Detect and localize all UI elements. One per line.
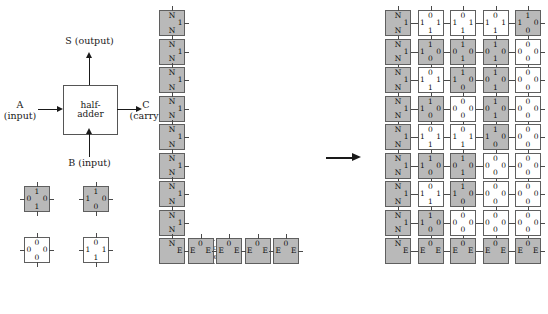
tile-edge-right: 0 bbox=[534, 105, 539, 113]
result-tile-r4-c1: NN1 bbox=[385, 96, 411, 122]
tile-edge-right: 0 bbox=[534, 76, 539, 84]
bond-h-r8-c2 bbox=[444, 223, 451, 224]
tile-edge-right: 1 bbox=[436, 19, 441, 27]
tile-stub-right bbox=[540, 23, 545, 24]
tile-edge-right: 0 bbox=[436, 48, 441, 56]
tile-edge-bottom: 0 bbox=[461, 198, 466, 206]
tile-stub-right bbox=[184, 194, 189, 195]
tile-edge-right: 0 bbox=[501, 76, 506, 84]
tile-stub-top bbox=[398, 6, 399, 11]
result-tile-r2-c4: 1100 bbox=[483, 39, 509, 65]
tile-edge-right: E bbox=[291, 247, 296, 255]
bond-v-r3-c2 bbox=[431, 93, 432, 96]
bond-v-r1-c3 bbox=[463, 36, 464, 39]
tile-stub-right bbox=[184, 137, 189, 138]
tile-edge-top: 0 bbox=[428, 183, 433, 191]
result-tile-r5-c3: 0111 bbox=[450, 124, 476, 150]
seed-column-tile-7: NN1 bbox=[159, 181, 185, 207]
result-tile-r4-c2: 1010 bbox=[418, 96, 444, 122]
tile-edge-bottom: N bbox=[395, 55, 402, 63]
tile-edge-left: 1 bbox=[86, 246, 91, 254]
tile-edge-bottom: N bbox=[395, 169, 402, 177]
tile-edge-left: 1 bbox=[453, 190, 458, 198]
tile-edge-top: 0 bbox=[526, 98, 531, 106]
tile-edge-right: 0 bbox=[501, 190, 506, 198]
tile-edge-top: 1 bbox=[35, 188, 40, 196]
result-tile-r1-c2: 0111 bbox=[418, 10, 444, 36]
tile-stub-top bbox=[201, 234, 202, 239]
output-arrow-head bbox=[86, 52, 92, 58]
tile-stub-right bbox=[184, 166, 189, 167]
tile-edge-left: 0 bbox=[453, 162, 458, 170]
tile-edge-top: 1 bbox=[461, 155, 466, 163]
tile-edge-top: 1 bbox=[493, 98, 498, 106]
tile-edge-left: E bbox=[420, 247, 425, 255]
bond-v-r7-c5 bbox=[528, 207, 529, 210]
legend-tile-1: 1100 bbox=[24, 186, 50, 212]
tile-edge-right: 0 bbox=[43, 246, 48, 254]
bond-v-r2-c1 bbox=[398, 65, 399, 68]
tile-stub-right bbox=[184, 223, 189, 224]
tile-edge-bottom: 0 bbox=[526, 27, 531, 35]
bond-h-r8-c1 bbox=[411, 223, 418, 224]
result-tile-r6-c4: 0000 bbox=[483, 153, 509, 179]
bond-v-r5-c4 bbox=[496, 150, 497, 153]
tile-edge-right: 0 bbox=[469, 162, 474, 170]
bond-h-r6-c1 bbox=[411, 166, 418, 167]
tile-edge-bottom: 0 bbox=[493, 141, 498, 149]
bond-v-r8-c5 bbox=[528, 236, 529, 239]
tile-edge-right: 1 bbox=[404, 190, 409, 198]
tile-edge-top: 1 bbox=[461, 183, 466, 191]
tile-edge-top: N bbox=[169, 240, 176, 248]
tile-edge-top: 1 bbox=[428, 41, 433, 49]
tile-edge-left: 0 bbox=[453, 219, 458, 227]
tile-edge-bottom: 1 bbox=[493, 55, 498, 63]
seed-column-tile-3: NN1 bbox=[159, 67, 185, 93]
tile-edge-bottom: 0 bbox=[428, 55, 433, 63]
tile-edge-left: 0 bbox=[485, 48, 490, 56]
seed-corner-tile: NE bbox=[159, 238, 185, 264]
tile-edge-top: 0 bbox=[493, 240, 498, 248]
seed-bond-v-4 bbox=[172, 122, 173, 125]
result-tile-r2-c1: NN1 bbox=[385, 39, 411, 65]
tile-edge-left: 1 bbox=[420, 48, 425, 56]
tile-edge-bottom: 0 bbox=[35, 254, 40, 262]
bond-h-r1-c1 bbox=[411, 23, 418, 24]
tile-edge-right: 0 bbox=[534, 19, 539, 27]
seed-column-tile-5: NN1 bbox=[159, 124, 185, 150]
tile-stub-right bbox=[184, 80, 189, 81]
tile-edge-right: 1 bbox=[178, 133, 183, 141]
tile-edge-top: 0 bbox=[461, 98, 466, 106]
tile-stub-right bbox=[108, 250, 113, 251]
tile-edge-top: 1 bbox=[493, 69, 498, 77]
bond-h-r4-c3 bbox=[476, 109, 483, 110]
bond-v-r6-c2 bbox=[431, 179, 432, 182]
result-tile-r8-c4: 0000 bbox=[483, 210, 509, 236]
seed-column-tile-6: NN1 bbox=[159, 153, 185, 179]
legend-tile-4: 0111 bbox=[83, 237, 109, 263]
tile-edge-top: 0 bbox=[255, 240, 260, 248]
tile-edge-right: E bbox=[206, 247, 211, 255]
seed-row-tile-1: 0EE bbox=[188, 238, 214, 264]
tile-stub-top bbox=[37, 182, 38, 187]
tile-edge-top: N bbox=[169, 126, 176, 134]
tile-edge-bottom: 0 bbox=[526, 84, 531, 92]
tile-edge-right: 1 bbox=[178, 190, 183, 198]
result-tile-r5-c2: 0111 bbox=[418, 124, 444, 150]
bond-h-r5-c2 bbox=[444, 137, 451, 138]
result-tile-r8-c1: NN1 bbox=[385, 210, 411, 236]
bond-h-r6-c2 bbox=[444, 166, 451, 167]
bond-h-r1-c3 bbox=[476, 23, 483, 24]
tile-stub-right bbox=[184, 23, 189, 24]
tile-edge-bottom: 1 bbox=[461, 27, 466, 35]
tile-stub-bottom bbox=[96, 262, 97, 267]
input-b-label: B (input) bbox=[42, 158, 137, 169]
bond-h-r3-c4 bbox=[509, 80, 516, 81]
seed-assembly: attach able NN1NN1NN1NN1NN1NN1NN1NN1NE0E… bbox=[155, 6, 330, 310]
tile-edge-bottom: N bbox=[169, 55, 176, 63]
tile-edge-bottom: 0 bbox=[493, 226, 498, 234]
tile-edge-left: 1 bbox=[453, 133, 458, 141]
tile-edge-right: 1 bbox=[404, 48, 409, 56]
bond-h-r2-c4 bbox=[509, 52, 516, 53]
tile-edge-left: 1 bbox=[420, 219, 425, 227]
